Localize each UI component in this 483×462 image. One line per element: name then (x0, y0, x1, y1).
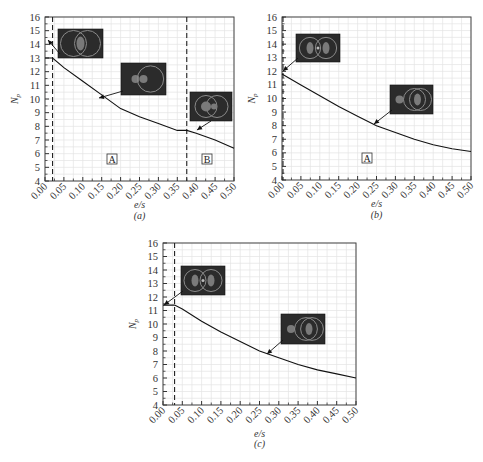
y-tick-label: 6 (272, 147, 277, 158)
chart-panel-a: 456789101112131415160.000.050.100.150.20… (9, 12, 238, 223)
chart-panel-c: 456789101112131415160.000.050.100.150.20… (127, 238, 360, 451)
y-tick-label: 8 (35, 121, 40, 132)
x-axis-label: e/s (371, 198, 382, 209)
x-tick-label: 0.05 (166, 405, 187, 426)
panel-caption: (b) (371, 209, 383, 221)
x-tick-label: 0.35 (398, 180, 419, 201)
y-tick-label: 7 (153, 359, 158, 370)
x-tick-label: 0.05 (48, 181, 69, 202)
y-tick-label: 16 (267, 12, 278, 23)
x-tick-label: 0.30 (379, 180, 400, 201)
inset-image (121, 63, 166, 95)
arrowhead (374, 119, 379, 124)
region-label: A (363, 153, 371, 164)
x-tick-label: 0.45 (320, 405, 341, 426)
y-tick-label: 14 (30, 39, 41, 50)
figure: 456789101112131415160.000.050.100.150.20… (0, 0, 483, 462)
x-tick-label: 0.15 (85, 181, 106, 202)
y-tick-label: 11 (148, 305, 158, 316)
region-label: A (108, 154, 116, 165)
inset-image (281, 314, 325, 344)
inset-image (58, 29, 103, 58)
arrowhead (164, 300, 169, 305)
y-axis-label: Np (9, 93, 22, 105)
x-tick-label: 0.45 (436, 180, 457, 201)
y-tick-label: 11 (30, 80, 40, 91)
y-tick-label: 5 (272, 161, 277, 172)
y-tick-label: 7 (35, 135, 40, 146)
y-tick-label: 10 (30, 94, 41, 105)
y-axis-label: Np (246, 93, 259, 105)
x-tick-label: 0.40 (180, 181, 201, 202)
y-tick-label: 15 (30, 25, 41, 36)
y-tick-label: 12 (148, 292, 159, 303)
x-tick-label: 0.10 (66, 181, 87, 202)
x-tick-label: 0.20 (224, 405, 245, 426)
x-tick-label: 0.40 (417, 180, 438, 201)
x-tick-label: 0.20 (104, 181, 125, 202)
x-tick-label: 0.10 (303, 180, 324, 201)
y-tick-label: 12 (30, 66, 41, 77)
figure-canvas: 456789101112131415160.000.050.100.150.20… (0, 0, 483, 462)
y-tick-label: 15 (148, 251, 159, 262)
y-tick-label: 7 (272, 134, 277, 145)
y-tick-label: 16 (30, 12, 41, 23)
y-tick-label: 11 (267, 79, 277, 90)
y-tick-label: 13 (30, 53, 41, 64)
chart-panel-b: 456789101112131415160.000.050.100.150.20… (246, 12, 475, 222)
x-tick-label: 0.15 (205, 405, 226, 426)
y-tick-label: 9 (35, 107, 40, 118)
x-tick-label: 0.45 (199, 181, 220, 202)
y-tick-label: 8 (272, 120, 277, 131)
y-tick-label: 10 (148, 319, 159, 330)
y-tick-label: 14 (267, 39, 278, 50)
x-tick-label: 0.10 (185, 405, 206, 426)
y-tick-label: 16 (148, 238, 159, 249)
y-tick-label: 9 (153, 332, 158, 343)
panel-caption: (c) (254, 438, 266, 450)
y-axis-label: Np (127, 318, 140, 330)
x-tick-label: 0.40 (301, 405, 322, 426)
x-tick-label: 0.50 (455, 180, 476, 201)
y-tick-label: 14 (148, 265, 159, 276)
x-axis-label: e/s (134, 199, 145, 210)
inset-image (190, 92, 232, 121)
x-tick-label: 0.50 (340, 405, 361, 426)
x-tick-label: 0.20 (341, 180, 362, 201)
inset-image (390, 85, 433, 114)
y-tick-label: 5 (35, 162, 40, 173)
y-tick-label: 10 (267, 93, 278, 104)
y-tick-label: 13 (267, 52, 278, 63)
inset-image (181, 266, 225, 295)
y-tick-label: 12 (267, 66, 278, 77)
region-label: B (204, 154, 211, 165)
y-tick-label: 9 (272, 107, 277, 118)
x-tick-label: 0.35 (161, 181, 182, 202)
inset-image (296, 34, 340, 62)
x-tick-label: 0.00 (147, 405, 168, 426)
y-tick-label: 6 (35, 148, 40, 159)
y-tick-label: 6 (153, 373, 158, 384)
y-tick-label: 13 (148, 278, 159, 289)
x-tick-label: 0.30 (142, 181, 163, 202)
axes: 456789101112131415160.000.050.100.150.20… (147, 238, 361, 426)
x-tick-label: 0.00 (266, 180, 287, 201)
x-tick-label: 0.50 (218, 181, 239, 202)
x-tick-label: 0.00 (29, 181, 50, 202)
panel-caption: (a) (134, 210, 146, 222)
y-tick-label: 5 (153, 386, 158, 397)
x-tick-label: 0.25 (243, 405, 264, 426)
x-tick-label: 0.35 (282, 405, 303, 426)
x-tick-label: 0.15 (322, 180, 343, 201)
x-tick-label: 0.30 (262, 405, 283, 426)
x-tick-label: 0.05 (285, 180, 306, 201)
y-tick-label: 8 (153, 346, 158, 357)
y-tick-label: 15 (267, 25, 278, 36)
